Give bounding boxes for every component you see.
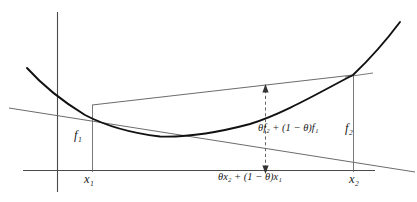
supporting-line (9, 108, 415, 172)
label-f1: f₁ (74, 129, 82, 142)
label-f2: f₂ (345, 122, 353, 135)
chord-line (92, 75, 353, 105)
convexity-figure: f₁ f₂ x₁ x₂ θf₂ + (1 − θ)f₁ θx₂ + (1 − θ… (0, 0, 417, 202)
label-x1: x₁ (84, 173, 94, 186)
label-x-combination: θx₂ + (1 − θ)x₁ (218, 172, 282, 183)
label-x2: x₂ (349, 173, 359, 186)
label-f-combination: θf₂ + (1 − θ)f₁ (258, 123, 318, 134)
